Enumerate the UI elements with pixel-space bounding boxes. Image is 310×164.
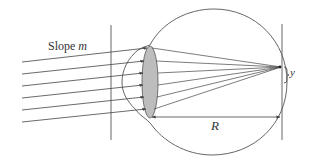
focal-point: [279, 66, 282, 69]
incoming-rays: [22, 48, 147, 122]
offset-label: y: [290, 66, 295, 78]
eye-optics-diagram: [0, 0, 310, 164]
incoming-ray-2: [22, 61, 144, 74]
incoming-ray-6: [22, 109, 146, 122]
incoming-ray-3: [22, 73, 143, 86]
converging-rays: [152, 48, 281, 109]
incoming-ray-4: [22, 85, 143, 98]
radius-label: R: [211, 118, 219, 134]
slope-label: Slope m: [48, 39, 87, 54]
lens: [142, 46, 158, 118]
incoming-ray-5: [22, 97, 144, 110]
